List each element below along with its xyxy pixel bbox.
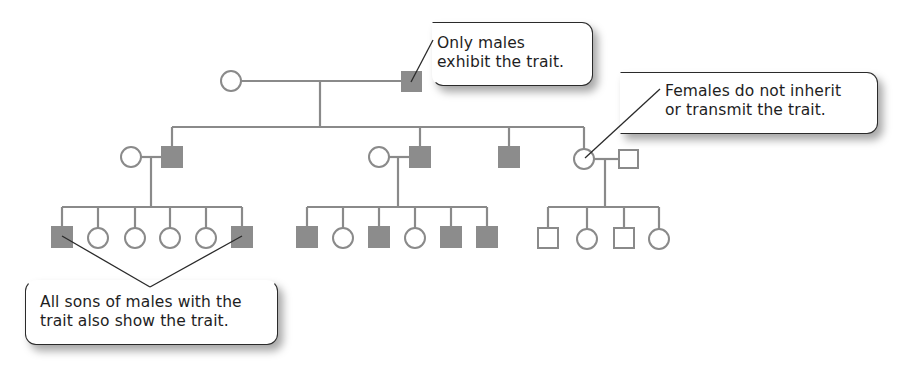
callout-line-2: trait also show the trait. — [40, 312, 242, 331]
male-affected-symbol — [52, 227, 72, 247]
male-affected-symbol — [441, 227, 461, 247]
male-affected-symbol — [297, 227, 317, 247]
male-affected-symbol — [477, 227, 497, 247]
female-unaffected-symbol — [369, 147, 389, 167]
male-affected-symbol — [499, 147, 519, 167]
female-unaffected-symbol — [221, 71, 241, 91]
female-unaffected-symbol — [160, 228, 180, 248]
female-unaffected-symbol — [121, 147, 141, 167]
callout-text: Females do not inherit or transmit the t… — [665, 82, 841, 120]
male-affected-symbol — [402, 72, 421, 91]
pedigree-diagram: Only males exhibit the trait. Females do… — [0, 0, 898, 371]
callout-females-do-not-inherit: Females do not inherit or transmit the t… — [620, 72, 878, 134]
callout-all-sons: All sons of males with the trait also sh… — [25, 280, 278, 345]
male-unaffected-symbol — [614, 228, 634, 248]
callout-line-1: Females do not inherit — [665, 82, 841, 101]
pedigree-symbols — [52, 71, 669, 249]
male-affected-symbol — [410, 147, 430, 167]
male-affected-symbol — [369, 227, 389, 247]
callout-line-1: All sons of males with the — [40, 293, 242, 312]
callout-line-2: exhibit the trait. — [437, 53, 564, 72]
female-unaffected-symbol — [88, 228, 108, 248]
callout-text: Only males exhibit the trait. — [437, 34, 564, 72]
female-unaffected-symbol — [577, 229, 597, 249]
female-unaffected-symbol — [574, 149, 594, 169]
callout-only-males: Only males exhibit the trait. — [432, 22, 593, 86]
female-unaffected-symbol — [196, 228, 216, 248]
callout-text: All sons of males with the trait also sh… — [40, 293, 242, 331]
female-unaffected-symbol — [405, 228, 425, 248]
callout-line-2: or transmit the trait. — [665, 101, 841, 120]
female-unaffected-symbol — [333, 228, 353, 248]
male-unaffected-symbol — [538, 228, 558, 248]
male-unaffected-symbol — [619, 150, 638, 168]
male-affected-symbol — [162, 147, 182, 167]
pedigree-lines — [62, 81, 659, 229]
female-unaffected-symbol — [125, 228, 145, 248]
male-affected-symbol — [232, 227, 252, 247]
female-unaffected-symbol — [649, 229, 669, 249]
callout-line-1: Only males — [437, 34, 564, 53]
